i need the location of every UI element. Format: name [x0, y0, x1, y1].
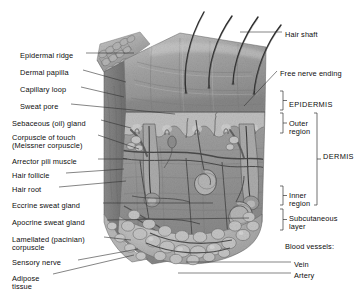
label-dermis: DERMIS [323, 153, 354, 162]
figure-canvas: Epidermal ridgeDermal papillaCapillary l… [0, 0, 363, 295]
label-hair-shaft: Hair shaft [285, 31, 318, 40]
label-eccrine-sweat-gland: Eccrine sweat gland [12, 202, 80, 211]
label-epidermal-ridge: Epidermal ridge [20, 52, 73, 61]
label-capillary-loop: Capillary loop [20, 86, 66, 95]
label-epidermis: EPIDERMIS [289, 101, 333, 110]
label-hair-root: Hair root [12, 186, 41, 195]
label-apocrine-sweat-gland: Apocrine sweat gland [12, 219, 85, 228]
label-sebaceous-gland: Sebaceous (oil) gland [12, 120, 86, 129]
label-blood-vessels-header: Blood vessels: [285, 243, 334, 252]
label-meissner-corpuscle: (Meissner corpuscle) [12, 142, 83, 151]
label-dermal-papilla: Dermal papilla [20, 69, 69, 78]
label-hair-follicle: Hair follicle [12, 172, 49, 181]
label-vein: Vein [294, 261, 309, 270]
label-artery: Artery [294, 272, 314, 281]
label-sensory-nerve: Sensory nerve [12, 259, 61, 268]
label-inner-region-2: region [289, 200, 310, 209]
label-arrector-pili-muscle: Arrector pili muscle [12, 158, 77, 167]
label-adipose-tissue-2: tissue [12, 283, 32, 292]
label-sweat-pore: Sweat pore [20, 103, 58, 112]
label-free-nerve-ending: Free nerve ending [280, 70, 342, 79]
label-lamellated-corpuscle-2: corpuscle [12, 244, 45, 253]
label-subcutaneous-layer-2: layer [289, 223, 306, 232]
label-outer-region-2: region [289, 128, 310, 137]
